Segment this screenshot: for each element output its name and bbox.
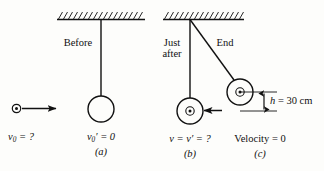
stage-label-after: after <box>162 48 181 59</box>
velocity-value-unknown: = ? <box>16 131 34 142</box>
figure-canvas <box>0 0 324 171</box>
stage-label-just-after: Just after <box>162 37 181 59</box>
bullet-icon-a <box>12 104 20 112</box>
stage-label-just: Just <box>162 37 181 48</box>
panel-caption-c: (c) <box>254 148 266 159</box>
physics-figure: Before v0 = ? v0′ = 0 (a) Just after End… <box>0 0 324 171</box>
pendulum-block-a <box>88 96 114 122</box>
ceiling-left <box>57 12 145 20</box>
pendulum-string-c <box>190 20 234 81</box>
height-value: = 30 cm <box>275 95 312 106</box>
velocity-label-block-a: v0′ = 0 <box>87 131 115 143</box>
velocity-label-b: v = v′ = ? <box>169 133 211 144</box>
ceiling-right <box>163 12 244 20</box>
panel-caption-b: (b) <box>184 148 196 159</box>
velocity-label-bullet-a: v0 = ? <box>8 131 34 143</box>
velocity-label-c: Velocity = 0 <box>234 133 285 144</box>
stage-label-before: Before <box>64 37 93 48</box>
panel-caption-a: (a) <box>95 146 107 157</box>
stage-label-end: End <box>217 37 234 48</box>
height-annotation: h = 30 cm <box>270 95 312 106</box>
velocity-value-zero: ′ = 0 <box>95 131 115 142</box>
pendulum-block-b <box>177 98 203 124</box>
